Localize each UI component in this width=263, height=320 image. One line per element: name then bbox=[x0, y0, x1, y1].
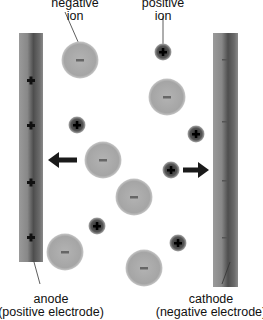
electrolysis-diagram bbox=[0, 0, 263, 320]
positive-ion bbox=[188, 126, 205, 143]
negative-ion bbox=[149, 79, 186, 116]
negative-ion-label: negative ion bbox=[45, 0, 105, 23]
positive-ion-label: positive ion bbox=[133, 0, 193, 23]
left-arrow-icon bbox=[48, 152, 77, 168]
negative-ion bbox=[85, 142, 122, 179]
cathode-label: cathode (negative electrode) bbox=[155, 293, 263, 319]
cathode-electrode bbox=[213, 33, 238, 287]
anode-label: anode (positive electrode) bbox=[0, 293, 107, 319]
positive-ion bbox=[163, 162, 180, 179]
anode-electrode bbox=[19, 33, 43, 284]
negative-ion bbox=[116, 179, 153, 216]
positive-ion bbox=[155, 44, 172, 61]
right-arrow-icon bbox=[183, 162, 209, 178]
negative-ion bbox=[47, 234, 84, 271]
negative-ion bbox=[62, 42, 99, 79]
positive-ion bbox=[170, 235, 187, 252]
negative-ion bbox=[126, 250, 163, 287]
positive-ion bbox=[69, 117, 86, 134]
negative-ions bbox=[47, 42, 186, 287]
positive-ion bbox=[89, 218, 106, 235]
